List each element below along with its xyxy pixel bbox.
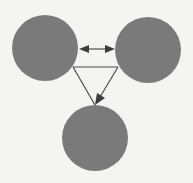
node-left — [12, 15, 78, 81]
relationship-diagram — [0, 0, 193, 183]
arrowhead-down-icon — [95, 93, 105, 105]
arrow-right-bottom — [95, 67, 118, 105]
node-right — [115, 17, 181, 83]
double-arrow-left-right — [79, 45, 115, 53]
arrowhead-left-icon — [79, 45, 89, 53]
arrowhead-right-icon — [105, 45, 115, 53]
node-bottom — [62, 105, 128, 171]
edge-left-bottom — [73, 67, 95, 105]
